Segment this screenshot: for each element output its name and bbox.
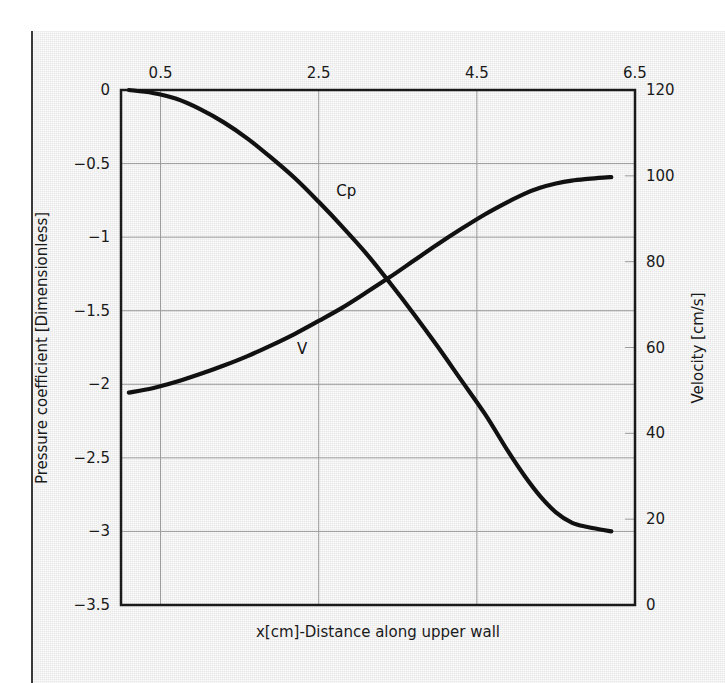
x-tick-label: 6.5: [623, 64, 647, 82]
x-tick-label: 4.5: [465, 64, 489, 82]
y-tick-label-right: 100: [646, 167, 675, 185]
y-tick-label-right: 120: [646, 81, 675, 99]
figure-page: 0.52.54.56.5 0−0.5−1−1.5−2−2.5−3−3.5 020…: [0, 0, 725, 683]
y-tick-label-left: −3: [88, 522, 110, 540]
tick-marks-right: [625, 176, 635, 519]
x-axis-tick-labels: 0.52.54.56.5: [149, 64, 647, 82]
y-tick-label-right: 80: [646, 253, 665, 271]
y-axis-left-tick-labels: 0−0.5−1−1.5−2−2.5−3−3.5: [74, 81, 110, 614]
y-tick-label-left: −2.5: [74, 449, 110, 467]
y-tick-label-right: 20: [646, 510, 665, 528]
grid-horizontal: [121, 164, 635, 532]
y-tick-label-left: −1: [88, 228, 110, 246]
y-tick-label-left: −1.5: [74, 302, 110, 320]
x-tick-label: 0.5: [149, 64, 173, 82]
y-tick-label-left: −2: [88, 375, 110, 393]
series-annotation-v: V: [297, 340, 308, 358]
plot-frame: [121, 90, 635, 605]
y-tick-label-left: −0.5: [74, 155, 110, 173]
series-line-v: [129, 177, 611, 392]
series-annotation-cp: Cp: [336, 182, 356, 200]
y-axis-right-tick-labels: 020406080100120: [646, 81, 675, 614]
y-axis-left-title: Pressure coefficient [Dimensionless]: [33, 212, 51, 484]
y-axis-right-title: Velocity [cm/s]: [689, 292, 707, 403]
y-tick-label-left: 0: [100, 81, 110, 99]
y-tick-label-right: 0: [646, 596, 656, 614]
x-axis-title: x[cm]-Distance along upper wall: [256, 623, 500, 641]
x-tick-label: 2.5: [307, 64, 331, 82]
y-tick-label-left: −3.5: [74, 596, 110, 614]
line-chart: 0.52.54.56.5 0−0.5−1−1.5−2−2.5−3−3.5 020…: [0, 0, 725, 683]
grid-vertical: [161, 90, 477, 605]
y-tick-label-right: 60: [646, 339, 665, 357]
y-tick-label-right: 40: [646, 424, 665, 442]
